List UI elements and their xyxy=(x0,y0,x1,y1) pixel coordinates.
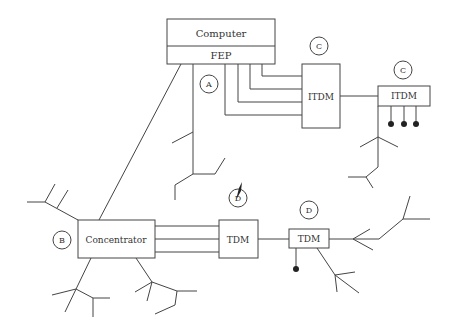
concentrator-label: Concentrator xyxy=(86,235,148,245)
computer-label: Computer xyxy=(196,28,247,39)
marker-c2-label: C xyxy=(400,66,406,75)
link-fep-concentrator xyxy=(99,64,181,220)
marker-b-label: B xyxy=(59,236,65,245)
multipoint-line-a xyxy=(172,64,225,200)
network-diagram: Computer FEP ITDM ITDM Concentrator TDM … xyxy=(0,0,455,333)
marker-c1-label: C xyxy=(316,42,322,51)
tdm-remote-label: TDM xyxy=(298,234,320,244)
links-concentrator-tdm xyxy=(155,226,219,252)
marker-d1-label: D xyxy=(235,194,241,203)
marker-a-label: A xyxy=(205,80,212,89)
marker-d2-label: D xyxy=(306,206,312,215)
itdm-remote-label: ITDM xyxy=(391,91,417,101)
terminal-dots xyxy=(293,121,419,272)
itdm-main-label: ITDM xyxy=(308,92,334,102)
fep-label: FEP xyxy=(211,50,232,61)
tdm-remote-branches xyxy=(317,196,430,293)
tdm-main-label: TDM xyxy=(227,235,249,245)
links-fep-itdm xyxy=(225,64,302,115)
